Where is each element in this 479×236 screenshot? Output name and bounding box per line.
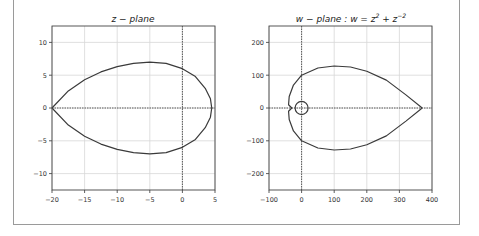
w-xtick-label: 400 [426, 196, 438, 204]
z-plane-title: z − plane [111, 14, 155, 24]
w-ytick-label: 100 [252, 72, 264, 80]
z-ytick-label: −10 [33, 170, 47, 178]
z-ytick-label: 10 [39, 39, 47, 47]
w-ytick-label: 200 [252, 39, 264, 47]
z-xtick-label: −15 [78, 196, 92, 204]
z-xtick-label: −5 [145, 196, 155, 204]
z-xtick-label: 5 [213, 196, 217, 204]
w-plane-title-prefix: w − plane : w = z [296, 14, 376, 24]
w-ytick-label: −100 [246, 137, 264, 145]
w-plane-plot: −1000100200300400−200−1000100200 [246, 26, 438, 204]
w-ytick-label: 0 [260, 104, 264, 112]
w-xtick-label: 200 [361, 196, 373, 204]
z-xtick-label: −10 [110, 196, 124, 204]
w-xtick-label: 0 [300, 196, 304, 204]
z-xtick-label: −20 [45, 196, 59, 204]
w-plane-title-mid: + z [379, 14, 397, 24]
figure: −20−15−10−505−10−50510 −1000100200300400… [0, 0, 479, 236]
w-plane-title: w − plane : w = z2 + z−2 [296, 12, 407, 24]
w-ytick-label: −200 [246, 170, 264, 178]
z-plane-plot: −20−15−10−505−10−50510 [33, 26, 217, 204]
z-ytick-label: 0 [43, 104, 47, 112]
w-xtick-label: 300 [393, 196, 405, 204]
w-plane-title-sup2: −2 [397, 12, 406, 19]
z-xtick-label: 0 [180, 196, 184, 204]
w-xtick-label: 100 [328, 196, 340, 204]
z-ytick-label: 5 [43, 72, 47, 80]
w-xtick-label: −100 [260, 196, 278, 204]
z-ytick-label: −5 [37, 137, 47, 145]
